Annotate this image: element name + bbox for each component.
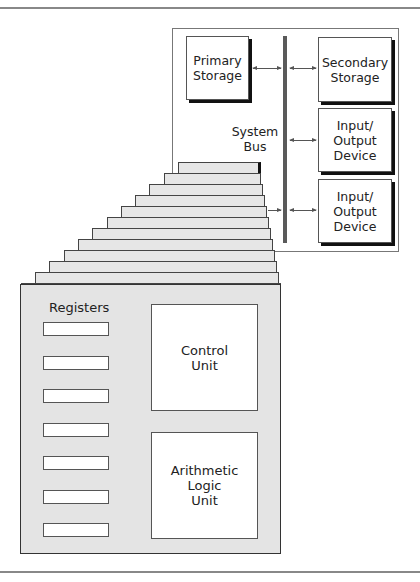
- register-slot: [43, 322, 109, 336]
- alu-box: Arithmetic Logic Unit: [151, 432, 258, 539]
- arrow-cpu-to-bus: [268, 210, 281, 211]
- bottom-rule: [0, 571, 420, 573]
- register-slot: [43, 356, 109, 370]
- register-slot: [43, 389, 109, 403]
- secondary-storage-box: Secondary Storage: [318, 37, 392, 102]
- register-slot: [43, 490, 109, 504]
- arrow-bus-to-secondary: [290, 68, 316, 69]
- control-unit-box: Control Unit: [151, 304, 258, 411]
- io-device-box-1: Input/ Output Device: [318, 108, 392, 172]
- arrow-primary-to-bus: [253, 68, 281, 69]
- primary-storage-box: Primary Storage: [186, 36, 249, 100]
- arrow-bus-to-io-1: [290, 140, 316, 141]
- system-bus-label: System Bus: [228, 124, 282, 154]
- top-rule: [0, 7, 420, 9]
- system-bus: [283, 36, 287, 243]
- register-slot: [43, 456, 109, 470]
- registers-label: Registers: [49, 300, 109, 315]
- io-device-box-2: Input/ Output Device: [318, 179, 392, 243]
- register-slot: [43, 423, 109, 437]
- register-slot: [43, 523, 109, 537]
- arrow-bus-to-io-2: [290, 210, 316, 211]
